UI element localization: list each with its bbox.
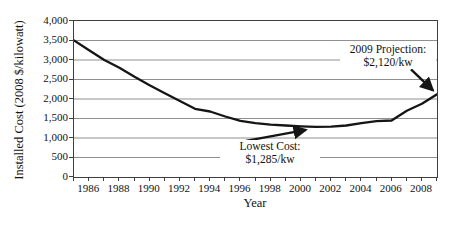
annotation-lowest-cost: Lowest Cost: $1,285/kw <box>220 140 320 166</box>
x-tick-mark <box>421 177 422 181</box>
y-tick-mark <box>69 40 73 41</box>
y-tick-label-500: 500 <box>24 150 68 163</box>
x-tick-label-2006: 2006 <box>374 182 408 195</box>
x-axis-title: Year <box>205 196 305 211</box>
x-tick-label-1986: 1986 <box>71 182 105 195</box>
y-tick-mark <box>69 137 73 138</box>
y-tick-mark <box>69 118 73 119</box>
installed-cost-chart: Installed Cost (2008 $/kilowatt) 4,0003,… <box>0 0 455 230</box>
annotation-lowest-cost-line2: $1,285/kw <box>220 153 320 166</box>
x-tick-mark <box>345 177 346 181</box>
x-tick-mark <box>179 177 180 181</box>
x-tick-mark <box>194 177 195 181</box>
x-tick-mark <box>134 177 135 181</box>
x-tick-mark <box>164 177 165 181</box>
x-tick-mark <box>360 177 361 181</box>
x-tick-mark <box>118 177 119 181</box>
y-tick-label-4000: 4,000 <box>24 14 68 27</box>
annotation-2009-projection-line2: $2,120/kw <box>340 56 436 69</box>
x-tick-label-1988: 1988 <box>101 182 135 195</box>
x-tick-label-1998: 1998 <box>253 182 287 195</box>
x-tick-mark <box>149 177 150 181</box>
x-tick-mark <box>300 177 301 181</box>
x-tick-mark <box>315 177 316 181</box>
annotation-2009-projection-line1: 2009 Projection: <box>340 43 436 56</box>
y-tick-mark <box>69 79 73 80</box>
x-tick-label-2000: 2000 <box>283 182 317 195</box>
x-tick-label-2002: 2002 <box>313 182 347 195</box>
x-tick-mark <box>103 177 104 181</box>
x-tick-mark <box>73 177 74 181</box>
x-tick-mark <box>224 177 225 181</box>
x-tick-label-1996: 1996 <box>222 182 256 195</box>
y-tick-label-2500: 2,500 <box>24 72 68 85</box>
y-tick-label-0: 0 <box>24 170 68 183</box>
y-tick-label-3000: 3,000 <box>24 53 68 66</box>
x-tick-label-1990: 1990 <box>132 182 166 195</box>
x-tick-label-1994: 1994 <box>192 182 226 195</box>
y-tick-label-1000: 1,000 <box>24 131 68 144</box>
x-tick-mark <box>209 177 210 181</box>
annotation-lowest-cost-line1: Lowest Cost: <box>220 140 320 153</box>
x-tick-mark <box>255 177 256 181</box>
x-tick-mark <box>330 177 331 181</box>
x-tick-mark <box>391 177 392 181</box>
y-tick-label-3500: 3,500 <box>24 33 68 46</box>
x-tick-mark <box>239 177 240 181</box>
x-tick-label-1992: 1992 <box>162 182 196 195</box>
x-tick-mark <box>406 177 407 181</box>
x-tick-mark <box>285 177 286 181</box>
y-tick-label-2000: 2,000 <box>24 92 68 105</box>
x-tick-mark <box>270 177 271 181</box>
x-tick-mark <box>376 177 377 181</box>
x-tick-label-2004: 2004 <box>343 182 377 195</box>
y-tick-label-1500: 1,500 <box>24 111 68 124</box>
annotation-2009-projection: 2009 Projection: $2,120/kw <box>340 43 436 69</box>
y-tick-mark <box>69 20 73 21</box>
x-tick-label-2008: 2008 <box>404 182 438 195</box>
x-tick-mark <box>88 177 89 181</box>
x-tick-mark <box>436 177 437 181</box>
y-tick-mark <box>69 157 73 158</box>
y-tick-mark <box>69 98 73 99</box>
y-tick-mark <box>69 59 73 60</box>
